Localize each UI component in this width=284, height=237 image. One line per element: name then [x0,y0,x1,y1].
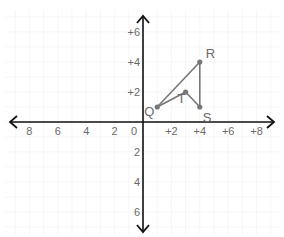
coordinate-plane-diagram: 0 8642+2+4+6+8 +6+4+2246 QRST [0,0,284,237]
point-label-S: S [203,110,212,125]
x-tick-label: 4 [83,125,89,137]
point-S [197,104,202,109]
y-tick-label: 6 [134,206,140,218]
point-label-R: R [206,46,215,61]
point-label-T: T [178,91,186,106]
origin-label: 0 [131,125,137,137]
labeled-points: QRST [144,46,215,125]
coordinate-plane-svg: 0 8642+2+4+6+8 +6+4+2246 QRST [0,0,284,237]
segment-ST [186,92,200,107]
y-tick-label: 4 [134,176,140,188]
x-tick-label: 6 [55,125,61,137]
point-R [197,59,202,64]
y-tick-label: 2 [134,146,140,158]
x-tick-labels: 8642+2+4+6+8 [26,125,263,137]
x-tick-label: +8 [250,125,263,137]
point-label-Q: Q [144,104,154,119]
axes: 0 [10,16,274,232]
point-Q [155,104,160,109]
y-tick-label: +2 [127,86,140,98]
y-tick-label: +6 [127,26,140,38]
x-tick-label: +6 [222,125,235,137]
x-tick-label: +2 [165,125,178,137]
x-tick-label: +4 [194,125,207,137]
y-tick-label: +4 [127,56,140,68]
x-tick-label: 2 [112,125,118,137]
x-tick-label: 8 [26,125,32,137]
